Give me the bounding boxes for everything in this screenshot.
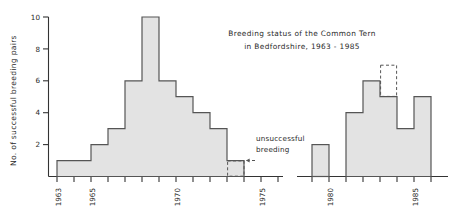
chart-container: 10 8 6 4 2 No. of successful breeding pa…	[0, 0, 468, 220]
annotation-unsuccessful-line2: breeding	[256, 145, 289, 154]
x-tick-label-1985: 1985	[411, 188, 420, 206]
x-tick-label-1975: 1975	[258, 188, 267, 206]
annotation-arrowhead	[246, 159, 250, 163]
x-tick-label-1963: 1963	[54, 188, 63, 206]
x-tick-label-1980: 1980	[326, 188, 335, 207]
bar-1979	[312, 145, 329, 177]
y-axis-ticks	[43, 17, 49, 145]
y-tick-label-8: 8	[35, 45, 40, 54]
x-axis-ticks-left	[57, 177, 278, 183]
y-tick-label-2: 2	[35, 140, 40, 149]
breeding-status-histogram: 10 8 6 4 2 No. of successful breeding pa…	[0, 0, 468, 220]
chart-title-line1: Breeding status of the Common Tern	[228, 29, 375, 38]
y-axis-title: No. of successful breeding pairs	[9, 35, 18, 166]
y-axis-tick-labels: 10 8 6 4 2	[31, 13, 41, 150]
dashed-box-unsuccessful-1983	[381, 65, 397, 96]
x-tick-label-1965: 1965	[88, 188, 97, 206]
annotation-unsuccessful-line1: unsuccessful	[256, 134, 305, 143]
y-tick-label-6: 6	[35, 76, 40, 85]
chart-title-line2: in Bedfordshire, 1963 - 1985	[244, 42, 360, 51]
bar-group-1963-1975	[57, 17, 244, 177]
x-axis-ticks-right	[312, 177, 431, 183]
y-tick-label-4: 4	[35, 108, 40, 117]
bar-group-1981-1985	[346, 81, 431, 177]
x-tick-label-1970: 1970	[173, 188, 182, 207]
y-tick-label-10: 10	[31, 13, 41, 22]
